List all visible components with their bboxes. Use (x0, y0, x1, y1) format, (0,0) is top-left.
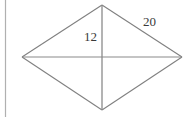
bottom-right-edge (102, 57, 182, 110)
bottom-left-edge (22, 57, 102, 110)
side-length-label: 20 (143, 15, 156, 28)
top-right-edge (102, 5, 182, 57)
diagonal-length-label: 12 (84, 30, 97, 43)
rhombus-figure (0, 0, 194, 117)
diagram-canvas: 12 20 (0, 0, 194, 117)
